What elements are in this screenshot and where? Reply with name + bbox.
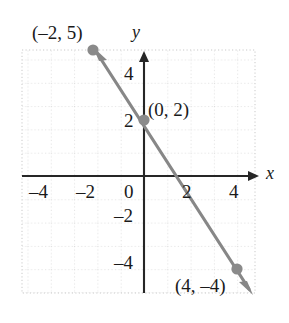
y-tick-label-neg4: –4 (114, 253, 133, 272)
y-tick-label-neg2: –2 (114, 206, 133, 225)
graph-figure: (–2, 5) (0, 2) (4, –4) x y –4 –2 0 2 4 4… (0, 0, 289, 323)
origin-label: 0 (124, 182, 134, 201)
x-tick-label-2: 2 (182, 182, 192, 201)
y-tick-label-4: 4 (124, 64, 134, 83)
point-label-upper-left: (–2, 5) (32, 23, 83, 42)
y-axis-label: y (132, 23, 140, 41)
coordinate-plane-svg (0, 0, 289, 323)
x-tick-label-neg2: –2 (76, 182, 95, 201)
grid-lines (22, 50, 255, 293)
x-axis-label: x (266, 164, 274, 182)
y-tick-label-2: 2 (124, 111, 134, 130)
point-label-lower-right: (4, –4) (175, 276, 226, 295)
x-tick-label-neg4: –4 (29, 182, 48, 201)
point-label-y-intercept: (0, 2) (148, 100, 189, 119)
x-tick-label-4: 4 (229, 182, 239, 201)
